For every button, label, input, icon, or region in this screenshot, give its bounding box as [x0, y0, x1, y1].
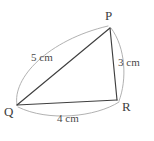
triangle-diagram-figure: P Q R 5 cm 3 cm 4 cm [0, 0, 154, 141]
vertex-label-r: R [122, 100, 131, 113]
vertex-label-p: P [105, 9, 112, 22]
measure-label-qr: 4 cm [57, 113, 79, 124]
edge-qr [17, 100, 117, 105]
measure-label-pq: 5 cm [31, 52, 53, 63]
measure-label-pr: 3 cm [118, 57, 140, 68]
vertex-label-q: Q [4, 105, 13, 118]
measure-arc-pq [17, 26, 108, 105]
edge-qp [17, 28, 110, 105]
edge-pr [110, 28, 117, 100]
